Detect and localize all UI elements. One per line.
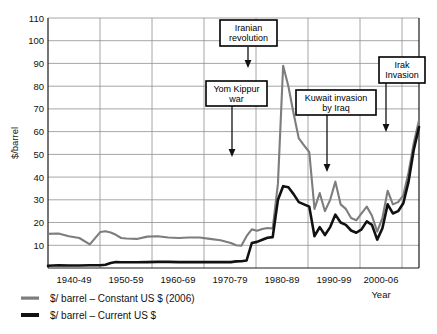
y-tick-label: 40 xyxy=(33,172,44,183)
x-tick-label: 2000-06 xyxy=(364,274,399,285)
x-tick-label: 1970-79 xyxy=(213,274,248,285)
annotation-label-line2: revolution xyxy=(229,33,268,43)
y-axis-title: $/barrel xyxy=(9,127,20,159)
legend-label-constant-usd: $/ barrel – Constant US $ (2006) xyxy=(50,293,195,304)
oil-price-chart: 110 100 90 80 70 60 50 40 30 20 10 $/bar… xyxy=(0,0,437,334)
x-tick-label: 1940-49 xyxy=(57,274,92,285)
annotation-label-line1: Irak xyxy=(394,60,410,70)
y-tick-label: 90 xyxy=(33,58,44,69)
y-tick-label: 110 xyxy=(29,13,44,24)
y-tick-label: 30 xyxy=(33,194,44,205)
y-tick-label: 10 xyxy=(33,240,44,251)
x-tick-label: 1960-69 xyxy=(161,274,196,285)
legend-swatch-constant-usd xyxy=(21,297,39,300)
arrow-down-icon xyxy=(324,164,331,172)
arrow-down-icon xyxy=(229,149,236,157)
x-axis-ticks: 1940-49 1950-59 1960-69 1970-79 1980-89 … xyxy=(57,274,399,285)
annotation-label-line2: Invasion xyxy=(385,70,419,80)
legend: $/ barrel – Constant US $ (2006) $/ barr… xyxy=(21,293,195,321)
arrow-down-icon xyxy=(383,124,390,132)
arrow-down-icon xyxy=(245,60,252,68)
legend-label-current-usd: $/ barrel – Current US $ xyxy=(50,310,157,321)
y-tick-label: 50 xyxy=(33,149,44,160)
y-tick-label: 70 xyxy=(33,103,44,114)
x-axis-title: Year xyxy=(371,289,390,300)
y-tick-label: 20 xyxy=(33,217,44,228)
y-tick-label: 100 xyxy=(28,35,44,46)
y-tick-label: 60 xyxy=(33,126,44,137)
annotation-label-line1: Kuwait invasion xyxy=(305,93,368,103)
annotation-label-line1: Yom Kippur xyxy=(213,84,259,94)
y-tick-label: 80 xyxy=(33,81,44,92)
x-tick-label: 1980-89 xyxy=(265,274,300,285)
annotation-yom-kippur: Yom Kippur war xyxy=(206,81,267,157)
x-tick-label: 1950-59 xyxy=(109,274,144,285)
legend-swatch-current-usd xyxy=(21,313,39,317)
chart-canvas: 110 100 90 80 70 60 50 40 30 20 10 $/bar… xyxy=(0,0,437,334)
annotation-label-line2: war xyxy=(228,94,244,104)
annotation-label-line2: by Iraq xyxy=(322,103,350,113)
annotation-iranian-revolution: Iranian revolution xyxy=(220,20,277,68)
y-axis-ticks: 110 100 90 80 70 60 50 40 30 20 10 xyxy=(28,13,44,251)
annotation-label-line1: Iranian xyxy=(235,23,263,33)
x-tick-label: 1990-99 xyxy=(317,274,352,285)
